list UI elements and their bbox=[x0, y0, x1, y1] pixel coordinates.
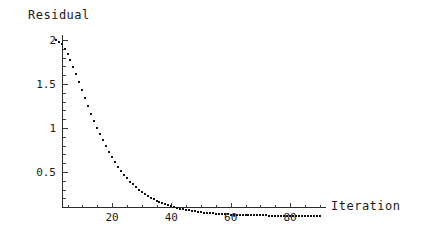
data-point bbox=[245, 214, 247, 216]
data-point bbox=[90, 113, 92, 115]
x-tick-minor bbox=[275, 205, 276, 208]
data-point bbox=[236, 214, 238, 216]
data-point bbox=[289, 215, 291, 217]
x-tick-minor bbox=[127, 205, 128, 208]
y-tick-major bbox=[63, 40, 68, 41]
data-point bbox=[87, 105, 89, 107]
x-tick-minor bbox=[260, 205, 261, 208]
data-point bbox=[123, 174, 125, 176]
data-point bbox=[197, 211, 199, 213]
x-tick-major bbox=[231, 203, 232, 208]
data-point bbox=[161, 202, 163, 204]
data-point bbox=[307, 215, 309, 217]
data-point bbox=[265, 214, 267, 216]
data-point bbox=[298, 215, 300, 217]
data-point bbox=[72, 66, 74, 68]
data-point bbox=[150, 197, 152, 199]
x-tick-major bbox=[290, 203, 291, 208]
x-tick-minor bbox=[82, 205, 83, 208]
x-axis-line bbox=[62, 207, 326, 208]
y-tick-minor bbox=[63, 146, 66, 147]
y-tick-label: 1 bbox=[49, 123, 56, 134]
y-axis-line bbox=[62, 35, 63, 208]
data-point bbox=[301, 215, 303, 217]
data-point bbox=[132, 183, 134, 185]
data-point bbox=[292, 215, 294, 217]
y-tick-minor bbox=[63, 58, 66, 59]
x-tick-major bbox=[112, 203, 113, 208]
data-point bbox=[135, 186, 137, 188]
x-tick-minor bbox=[186, 205, 187, 208]
data-point bbox=[182, 208, 184, 210]
data-point bbox=[316, 215, 318, 217]
data-point bbox=[129, 181, 131, 183]
data-point bbox=[280, 215, 282, 217]
x-tick-minor bbox=[157, 205, 158, 208]
data-point bbox=[227, 213, 229, 215]
y-tick-minor bbox=[63, 93, 66, 94]
y-tick-minor bbox=[63, 110, 66, 111]
data-point bbox=[319, 215, 321, 217]
data-point bbox=[173, 206, 175, 208]
data-point bbox=[256, 214, 258, 216]
x-tick-label: 20 bbox=[105, 212, 118, 223]
x-tick-minor bbox=[142, 205, 143, 208]
data-point bbox=[69, 59, 71, 61]
y-tick-major bbox=[63, 84, 68, 85]
x-tick-minor bbox=[216, 205, 217, 208]
data-point bbox=[224, 213, 226, 215]
data-point bbox=[164, 203, 166, 205]
data-point bbox=[242, 214, 244, 216]
y-tick-minor bbox=[63, 154, 66, 155]
data-point bbox=[221, 213, 223, 215]
data-point bbox=[253, 214, 255, 216]
data-point bbox=[233, 214, 235, 216]
data-point bbox=[191, 210, 193, 212]
y-tick-label: 1.5 bbox=[36, 79, 56, 90]
data-point bbox=[176, 207, 178, 209]
y-tick-minor bbox=[63, 119, 66, 120]
data-point bbox=[271, 215, 273, 217]
data-point bbox=[117, 166, 119, 168]
y-tick-minor bbox=[63, 163, 66, 164]
data-point bbox=[78, 81, 80, 83]
data-point bbox=[96, 127, 98, 129]
data-point bbox=[259, 214, 261, 216]
y-tick-minor bbox=[63, 190, 66, 191]
data-point bbox=[206, 212, 208, 214]
data-point bbox=[93, 120, 95, 122]
data-point bbox=[283, 215, 285, 217]
y-tick-minor bbox=[63, 66, 66, 67]
data-point bbox=[268, 215, 270, 217]
data-point bbox=[84, 97, 86, 99]
data-point bbox=[81, 89, 83, 91]
y-tick-minor bbox=[63, 137, 66, 138]
y-tick-minor bbox=[63, 198, 66, 199]
x-tick-label: 80 bbox=[283, 212, 296, 223]
data-point bbox=[212, 212, 214, 214]
data-point bbox=[111, 156, 113, 158]
x-axis-title: Iteration bbox=[331, 200, 401, 212]
data-point bbox=[274, 215, 276, 217]
data-point bbox=[114, 161, 116, 163]
data-point bbox=[250, 214, 252, 216]
data-point bbox=[295, 215, 297, 217]
data-point bbox=[179, 208, 181, 210]
residual-plot: Residual Iteration 20406080 0.511.52 bbox=[0, 0, 422, 234]
data-point bbox=[64, 48, 66, 50]
data-point bbox=[105, 145, 107, 147]
data-point bbox=[200, 211, 202, 213]
data-point bbox=[144, 193, 146, 195]
data-point bbox=[138, 189, 140, 191]
data-point bbox=[102, 139, 104, 141]
data-point bbox=[310, 215, 312, 217]
data-point bbox=[188, 209, 190, 211]
data-point bbox=[218, 213, 220, 215]
data-point bbox=[120, 170, 122, 172]
data-point bbox=[75, 73, 77, 75]
data-point bbox=[194, 210, 196, 212]
data-point bbox=[170, 205, 172, 207]
data-point bbox=[247, 214, 249, 216]
data-point bbox=[313, 215, 315, 217]
data-point bbox=[158, 201, 160, 203]
